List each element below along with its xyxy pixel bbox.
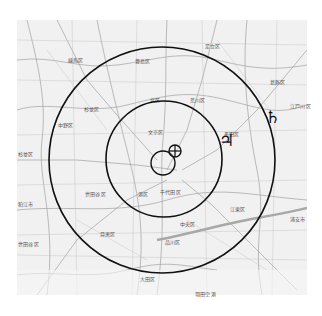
jupiter-symbol-icon: ♃ xyxy=(219,130,234,150)
earth-symbol-icon xyxy=(169,145,181,157)
orbit-overlay: ♃ ♄ xyxy=(0,0,322,316)
middle-orbit-circle xyxy=(106,101,222,217)
outer-orbit-circle xyxy=(49,47,275,273)
saturn-symbol-icon: ♄ xyxy=(265,107,280,127)
